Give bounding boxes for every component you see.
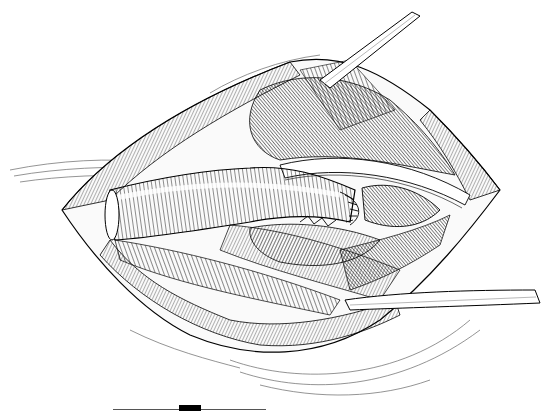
scale-bar (113, 405, 266, 413)
surgical-illustration (0, 0, 559, 418)
scale-bar-block (179, 405, 201, 411)
graft-end (105, 190, 119, 240)
